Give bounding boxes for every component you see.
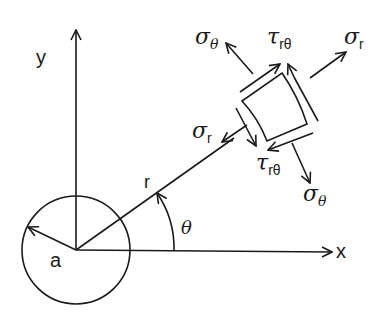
sigma-theta-bottom-arrow bbox=[292, 143, 310, 183]
radius-a-label: a bbox=[50, 249, 62, 271]
sigma-theta-top-label: σθ bbox=[195, 24, 219, 52]
sigma-theta-bottom-label: σθ bbox=[303, 181, 327, 209]
x-axis bbox=[76, 250, 332, 252]
sigma-r-inner-label: σr bbox=[192, 118, 212, 146]
x-axis-label: x bbox=[336, 240, 346, 262]
stress-element bbox=[236, 64, 318, 150]
r-label: r bbox=[144, 172, 150, 192]
radial-line bbox=[76, 138, 234, 250]
tau-bottom-label: τrθ bbox=[256, 150, 281, 178]
tau-bottom-right bbox=[268, 133, 313, 150]
sigma-theta-top-arrow bbox=[226, 43, 253, 74]
theta-label: θ bbox=[181, 217, 192, 238]
sigma-r-outer-arrow bbox=[310, 52, 346, 78]
sigma-r-outer-label: σr bbox=[344, 24, 364, 52]
y-axis-label: y bbox=[36, 46, 46, 68]
radius-a-arrow bbox=[28, 227, 76, 250]
stress-diagram: y x a r θ σθ τrθ σr σr τrθ σθ bbox=[0, 0, 386, 324]
tau-top-label: τrθ bbox=[267, 24, 292, 52]
sigma-r-inner-arrow bbox=[222, 125, 247, 142]
theta-arc bbox=[157, 193, 174, 251]
